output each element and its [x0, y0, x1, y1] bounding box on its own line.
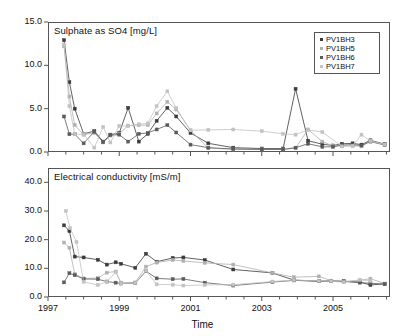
x-tick-label: 2001 [171, 303, 211, 313]
x-tick-label: 2003 [242, 303, 282, 313]
plot-canvas-conductivity [0, 0, 405, 336]
x-tick-label: 1999 [99, 303, 139, 313]
y-tick-label: 0.0 [2, 291, 42, 301]
y-tick-label: 10.0 [2, 262, 42, 272]
figure-root: Sulphate as SO4 [mg/L] PV1BH3 PV1BH5 PV1… [0, 0, 405, 336]
x-tick-label: 2005 [313, 303, 353, 313]
y-tick-label: 40.0 [2, 176, 42, 186]
y-tick-label: 20.0 [2, 234, 42, 244]
x-tick-label: 1997 [28, 303, 68, 313]
x-axis-label: Time [0, 319, 405, 330]
y-tick-label: 30.0 [2, 205, 42, 215]
